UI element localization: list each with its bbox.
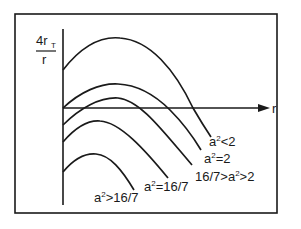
curve-a2-eq-16-7 bbox=[63, 121, 168, 178]
diagram-canvas: 4r T r r a2<2 a2=2 16/7>a2>2 a2=16/7 bbox=[0, 0, 301, 229]
label-a2-eq-16-7: a2=16/7 bbox=[144, 179, 189, 194]
x-axis-arrow-icon bbox=[258, 104, 270, 112]
svg-text:a2=2: a2=2 bbox=[204, 151, 231, 166]
label-rel: >16/7 bbox=[106, 190, 139, 205]
svg-text:a2>16/7: a2>16/7 bbox=[94, 190, 139, 205]
label-a2-lt-2: a2<2 bbox=[209, 134, 236, 149]
y-label-subscript: T bbox=[51, 41, 56, 50]
x-axis-label: r bbox=[272, 101, 277, 116]
svg-text:16/7>a2>2: 16/7>a2>2 bbox=[195, 169, 254, 184]
svg-text:a2=16/7: a2=16/7 bbox=[144, 179, 189, 194]
label-a2-eq-2: a2=2 bbox=[204, 151, 231, 166]
label-a2-between: 16/7>a2>2 bbox=[195, 169, 254, 184]
curve-a2-eq-2 bbox=[63, 84, 201, 150]
label-a2-gt-16-7: a2>16/7 bbox=[94, 190, 139, 205]
curve-a2-gt-16-7 bbox=[63, 154, 134, 190]
svg-text:a2<2: a2<2 bbox=[209, 134, 236, 149]
y-label-denominator: r bbox=[42, 52, 47, 67]
label-pre: 16/7> bbox=[195, 169, 228, 184]
y-label-numerator: 4r bbox=[36, 33, 48, 48]
label-rel: >2 bbox=[240, 169, 255, 184]
label-rel: =2 bbox=[216, 151, 231, 166]
label-rel: <2 bbox=[221, 134, 236, 149]
label-rel: =16/7 bbox=[156, 179, 189, 194]
y-axis-label: 4r T r bbox=[36, 33, 56, 67]
